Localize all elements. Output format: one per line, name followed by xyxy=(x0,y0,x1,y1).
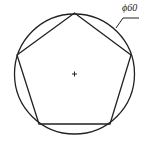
dimension-leader-line xyxy=(116,18,139,28)
pentagon-diagram xyxy=(0,0,149,142)
diameter-label: ϕ60 xyxy=(122,2,137,13)
